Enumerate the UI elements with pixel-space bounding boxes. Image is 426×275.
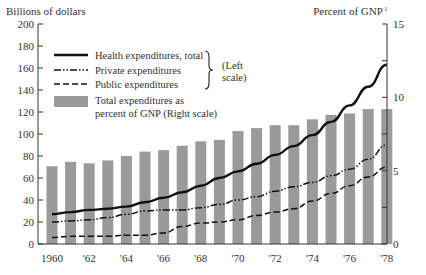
right-tick-label: 0	[393, 238, 399, 250]
right-tick-label: 15	[393, 18, 405, 30]
left-tick-label: 200	[18, 18, 35, 30]
legend-label: Private expenditures	[95, 65, 181, 76]
x-tick-label: '66	[157, 252, 170, 264]
left-axis-title: Billions of dollars	[6, 5, 85, 17]
left-tick-label: 100	[18, 128, 35, 140]
x-tick-label: '76	[343, 252, 356, 264]
gnp-bar	[102, 160, 113, 244]
gnp-bar	[121, 156, 132, 244]
gnp-bar	[177, 146, 188, 244]
legend-bar-swatch	[54, 96, 88, 107]
left-tick-label: 60	[23, 172, 35, 184]
brace-icon	[205, 51, 213, 89]
x-tick-label: '62	[83, 252, 96, 264]
x-tick-label: '70	[232, 252, 245, 264]
left-tick-label: 140	[18, 84, 35, 96]
gnp-bar	[251, 128, 262, 244]
left-tick-label: 80	[23, 150, 35, 162]
right-axis-title-superscript: 1	[384, 5, 388, 13]
gnp-bar	[270, 125, 281, 244]
legend-label: Total expenditures as	[95, 95, 184, 106]
left-tick-label: 160	[18, 62, 35, 74]
x-tick-label: 1960	[41, 252, 64, 264]
gnp-bar	[84, 163, 95, 244]
gnp-bar	[344, 113, 355, 244]
x-tick-label: '68	[194, 252, 207, 264]
gnp-bar	[195, 141, 206, 244]
left-tick-label: 180	[18, 40, 35, 52]
gnp-bar	[288, 125, 299, 244]
left-scale-note: scale)	[222, 72, 247, 84]
gnp-bar	[233, 131, 244, 244]
gnp-bar	[65, 162, 76, 244]
gnp-percent-bars	[47, 109, 393, 244]
left-scale-note: (Left	[222, 60, 243, 72]
legend: Health expenditures, totalPrivate expend…	[54, 50, 247, 120]
legend-label: Public expenditures	[95, 79, 178, 90]
health-expenditure-chart: Billions of dollars Percent of GNP 1 020…	[0, 0, 426, 275]
right-tick-label: 5	[393, 165, 399, 177]
right-axis-title: Percent of GNP	[313, 5, 383, 17]
x-tick-label: '72	[269, 252, 282, 264]
left-tick-label: 0	[29, 238, 35, 250]
right-tick-label: 10	[393, 91, 405, 103]
legend-label: Health expenditures, total	[95, 50, 203, 61]
x-tick-label: '74	[306, 252, 319, 264]
gnp-bar	[214, 140, 225, 244]
gnp-bar	[47, 166, 58, 244]
left-tick-label: 120	[18, 106, 35, 118]
gnp-bar	[326, 115, 337, 244]
x-tick-label: '78	[380, 252, 393, 264]
left-tick-label: 40	[23, 194, 35, 206]
legend-label: percent of GNP (Right scale)	[95, 108, 218, 120]
gnp-bar	[140, 152, 151, 244]
left-tick-label: 20	[23, 216, 35, 228]
x-tick-label: '64	[120, 252, 133, 264]
